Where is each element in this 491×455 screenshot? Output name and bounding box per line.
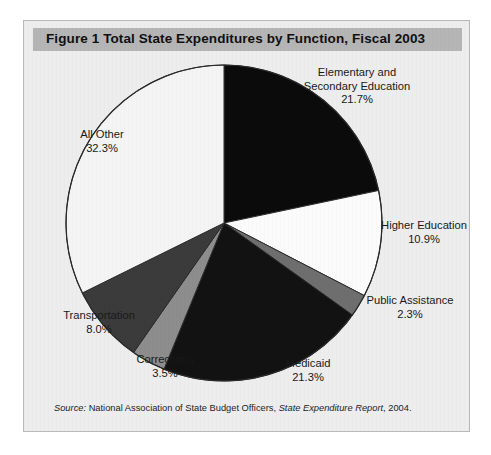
label-name-line1: Public Assistance xyxy=(344,294,470,308)
label-name-line1: Higher Education xyxy=(364,219,470,233)
page-title: Figure 1 Total State Expenditures by Fun… xyxy=(46,31,425,46)
label-value: 3.5% xyxy=(109,367,221,381)
source-publication: State Expenditure Report xyxy=(279,403,383,413)
figure-title-bar: Figure 1 Total State Expenditures by Fun… xyxy=(33,28,462,51)
label-value: 32.3% xyxy=(41,142,163,156)
source-organization: National Association of State Budget Off… xyxy=(89,403,276,413)
pie-chart: Elementary and Secondary Education 21.7%… xyxy=(24,21,470,432)
pie-label-higher-education: Higher Education 10.9% xyxy=(364,219,470,246)
source-note: Source: National Association of State Bu… xyxy=(54,403,454,413)
pie-label-transportation: Transportation 8.0% xyxy=(37,309,161,336)
label-value: 21.7% xyxy=(282,93,432,107)
source-year: , 2004. xyxy=(383,403,411,413)
label-name-line1: Medicaid xyxy=(256,357,360,371)
figure-panel: Elementary and Secondary Education 21.7%… xyxy=(23,20,470,432)
label-name-line1: Transportation xyxy=(37,309,161,323)
pie-label-elementary-secondary-education: Elementary and Secondary Education 21.7% xyxy=(282,66,432,107)
label-name-line2: Secondary Education xyxy=(282,80,432,94)
pie-label-medicaid: Medicaid 21.3% xyxy=(256,357,360,384)
pie-label-public-assistance: Public Assistance 2.3% xyxy=(344,294,470,321)
pie-label-all-other: All Other 32.3% xyxy=(41,128,163,155)
label-value: 2.3% xyxy=(344,308,470,322)
label-name-line1: Elementary and xyxy=(282,66,432,80)
label-value: 10.9% xyxy=(364,233,470,247)
label-value: 21.3% xyxy=(256,371,360,385)
pie-label-corrections: Corrections 3.5% xyxy=(109,353,221,380)
label-name-line1: Corrections xyxy=(109,353,221,367)
source-label: Source: xyxy=(54,403,86,413)
label-value: 8.0% xyxy=(37,323,161,337)
label-name-line1: All Other xyxy=(41,128,163,142)
